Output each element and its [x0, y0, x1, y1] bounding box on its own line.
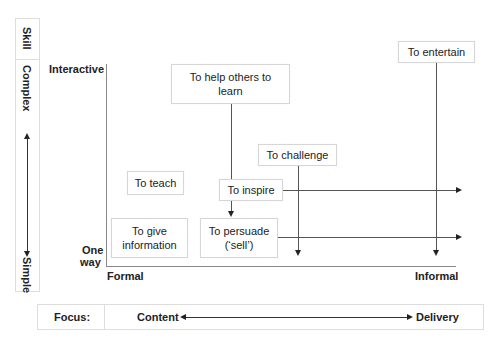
- inspire-arrow-line: [283, 190, 456, 191]
- informal-label: Informal: [415, 270, 458, 282]
- focus-bar: Focus: Content Delivery: [37, 304, 484, 330]
- skill-axis-panel: Skill Complex Simple: [15, 18, 40, 292]
- formal-label: Formal: [107, 270, 144, 282]
- box-text: To teach: [135, 176, 177, 190]
- content-label: Content: [137, 311, 179, 323]
- one-way-label-2: way: [80, 256, 101, 268]
- one-way-label-1: One: [82, 244, 103, 256]
- focus-label: Focus:: [54, 311, 90, 323]
- interactive-label: Interactive: [49, 63, 104, 75]
- box-teach: To teach: [127, 171, 184, 195]
- box-persuade: To persuade (‘sell’): [200, 218, 278, 258]
- box-give-information: To give information: [111, 218, 188, 258]
- simple-label: Simple: [21, 257, 33, 293]
- box-entertain: To entertain: [398, 41, 475, 63]
- box-text: (‘sell’): [225, 238, 254, 252]
- box-text: To inspire: [227, 183, 274, 197]
- box-challenge: To challenge: [258, 144, 337, 166]
- y-axis-line: [106, 64, 107, 267]
- challenge-line: [298, 166, 299, 251]
- box-text: learn: [218, 84, 242, 98]
- box-text: To challenge: [267, 148, 329, 162]
- arrow-down-icon: [295, 250, 301, 256]
- x-axis-line: [106, 266, 456, 267]
- box-help-others-learn: To help others to learn: [171, 64, 290, 104]
- entertain-line: [436, 63, 437, 251]
- skill-header-cell: Skill: [16, 19, 39, 60]
- skill-header: Skill: [21, 27, 33, 50]
- focus-divider: [104, 305, 105, 329]
- skill-axis-line: [27, 137, 28, 253]
- box-inspire: To inspire: [219, 179, 283, 201]
- box-text: To give: [132, 224, 167, 238]
- box-text: information: [122, 238, 176, 252]
- box-text: To entertain: [408, 45, 465, 59]
- focus-axis-line: [186, 317, 408, 318]
- delivery-label: Delivery: [416, 311, 459, 323]
- arrow-right-icon: [407, 314, 413, 320]
- box-text: To persuade: [209, 224, 270, 238]
- persuade-arrow-line: [278, 237, 456, 238]
- arrow-down-icon: [228, 211, 234, 217]
- arrow-right-icon: [456, 234, 462, 240]
- box-text: To help others to: [190, 70, 271, 84]
- arrow-right-icon: [456, 187, 462, 193]
- complex-label: Complex: [21, 65, 33, 111]
- arrow-down-icon: [433, 250, 439, 256]
